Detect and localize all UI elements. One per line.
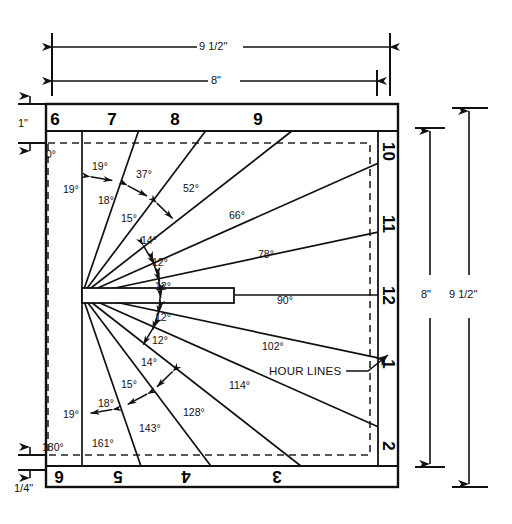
hour-angle-label: 37° — [136, 168, 152, 180]
hour-line-114deg — [82, 295, 378, 427]
increment-tick — [128, 394, 147, 404]
hour-number-bottom-6: 6 — [50, 466, 68, 486]
dim-label-top-outer: 9 1/2" — [199, 40, 227, 52]
increment-angle-label-upper: 12° — [155, 280, 171, 292]
hour-angle-label: 161° — [92, 437, 114, 449]
dim-label-right-inner: 8" — [421, 288, 431, 300]
hour-number-right-10: 10 — [378, 142, 398, 160]
hour-angle-label: 102° — [262, 340, 284, 352]
increment-tick — [157, 372, 173, 387]
hour-number-bottom-5: 5 — [109, 466, 127, 486]
increment-angle-label-upper: 14° — [141, 234, 157, 246]
hour-number-bottom-4: 4 — [177, 466, 195, 486]
dim-label-right-outer: 9 1/2" — [449, 288, 477, 300]
increment-angle-label-lower: 12° — [155, 311, 171, 323]
increment-angle-label-upper: 18° — [98, 194, 114, 206]
increment-tick — [91, 410, 113, 414]
increment-angle-label-lower: 19° — [63, 408, 79, 420]
left-dimension-group — [18, 96, 46, 478]
hour-angle-label: 128° — [183, 406, 205, 418]
hour-lines-callout-label: HOUR LINES — [269, 365, 341, 377]
hour-angle-label: 66° — [229, 209, 245, 221]
diagram-canvas — [0, 0, 512, 524]
hour-number-bottom-3: 3 — [268, 466, 286, 486]
hour-angle-label: 52° — [183, 182, 199, 194]
increment-angle-label-lower: 18° — [98, 397, 114, 409]
hour-angle-label: 114° — [229, 379, 250, 391]
hour-number-top-7: 7 — [103, 110, 121, 130]
increment-angle-label-lower: 15° — [121, 378, 137, 390]
dim-label-left-bottom: 1/4" — [14, 482, 33, 494]
hour-number-top-8: 8 — [166, 110, 184, 130]
hour-number-right-1: 1 — [378, 355, 398, 373]
hour-angle-label: 19° — [92, 160, 108, 172]
increment-tick — [157, 203, 173, 218]
increment-angle-label-upper: 12° — [152, 256, 168, 268]
increment-angle-label-upper: 19° — [63, 183, 79, 195]
hour-angle-label: 180° — [42, 441, 64, 453]
hour-number-top-6: 6 — [46, 110, 64, 130]
dim-label-top-inner: 8" — [211, 74, 221, 86]
increment-tick — [128, 186, 147, 196]
hour-number-right-11: 11 — [378, 215, 398, 233]
hour-line-78deg — [82, 232, 378, 295]
hour-angle-label: 90° — [277, 294, 293, 306]
dim-label-left-top: 1" — [18, 117, 28, 129]
increment-angle-label-lower: 12° — [152, 334, 168, 346]
hour-number-right-12: 12 — [378, 286, 398, 304]
hour-line-66deg — [82, 163, 378, 295]
increment-angle-label-upper: 15° — [121, 212, 137, 224]
increment-tick — [91, 177, 113, 181]
hour-line-102deg — [82, 295, 378, 358]
hour-angle-label: 0° — [46, 148, 56, 160]
hour-number-right-2: 2 — [378, 437, 398, 455]
increment-angle-label-lower: 14° — [141, 356, 157, 368]
hour-angle-label: 143° — [139, 422, 161, 434]
hour-number-top-9: 9 — [249, 110, 267, 130]
hour-angle-label: 78° — [258, 248, 274, 260]
sundial-diagram: 9 1/2" 8" 1" 1/4" 8" 9 1/2" HOUR LINES 6… — [0, 0, 512, 524]
